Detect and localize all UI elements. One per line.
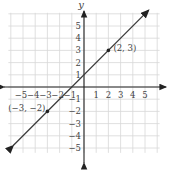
y-tick-label: −3: [68, 119, 81, 129]
data-point: [46, 110, 50, 114]
x-tick-label: −4: [27, 90, 40, 100]
y-tick-label: −5: [68, 143, 81, 153]
x-tick-label: 4: [130, 90, 135, 100]
x-tick-label: −2: [51, 90, 64, 100]
x-tick-label: −3: [39, 90, 52, 100]
y-tick-label: −2: [68, 106, 81, 116]
y-tick-label: 5: [76, 21, 81, 31]
y-axis-label: y: [77, 0, 84, 10]
y-tick-label: 4: [76, 33, 81, 43]
x-tick-label: −5: [15, 90, 28, 100]
point-label: (−3, −2): [8, 103, 45, 113]
point-label: (2, 3): [113, 43, 136, 53]
x-tick-label: 1: [93, 90, 98, 100]
y-tick-label: −1: [68, 94, 81, 104]
y-tick-label: −4: [68, 131, 81, 141]
y-tick-label: 3: [76, 45, 81, 55]
x-tick-label: 5: [142, 90, 147, 100]
x-tick-label: 3: [118, 90, 123, 100]
coordinate-plane: y−5−4−3−2−11234554321−1−2−3−4−5(2, 3)(−3…: [0, 0, 171, 170]
x-tick-label: 2: [106, 90, 111, 100]
y-tick-label: 2: [76, 58, 81, 68]
data-point: [107, 49, 111, 53]
